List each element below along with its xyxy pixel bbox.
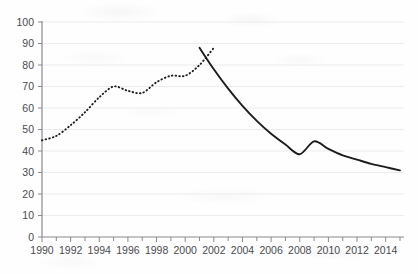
y-axis-tick-label: 80 <box>22 59 34 71</box>
y-axis-tick-label: 50 <box>22 123 34 135</box>
x-axis-group: 1990199219941996199820002002200420062008… <box>30 237 404 256</box>
y-axis-tick-label: 0 <box>28 231 34 243</box>
y-axis-tick-label: 90 <box>22 37 34 49</box>
x-axis-tick-label: 1998 <box>145 244 169 256</box>
y-axis-tick-label: 70 <box>22 80 34 92</box>
series-line-dotted <box>42 48 214 140</box>
x-axis-tick-label: 1994 <box>88 244 112 256</box>
y-axis-group: 0102030405060708090100 <box>16 16 42 243</box>
x-axis-tick-label: 1996 <box>116 244 140 256</box>
x-axis-tick-label: 2006 <box>259 244 283 256</box>
data-series-group <box>42 48 400 171</box>
line-chart-figure: 0102030405060708090100 19901992199419961… <box>0 0 418 274</box>
x-axis-tick-label: 2012 <box>345 244 369 256</box>
y-axis-tick-label: 10 <box>22 209 34 221</box>
y-axis-tick-label: 20 <box>22 188 34 200</box>
x-axis-tick-label: 2014 <box>374 244 398 256</box>
series-line-solid <box>200 48 400 171</box>
x-axis-tick-label: 2002 <box>202 244 226 256</box>
y-axis-tick-label: 40 <box>22 145 34 157</box>
x-axis-tick-label: 1990 <box>30 244 54 256</box>
y-axis-tick-label: 100 <box>16 16 34 28</box>
gridlines <box>42 22 404 216</box>
x-axis-tick-label: 2000 <box>174 244 198 256</box>
x-axis-tick-label: 2008 <box>288 244 312 256</box>
y-axis-tick-label: 60 <box>22 102 34 114</box>
x-axis-tick-label: 2004 <box>231 244 255 256</box>
x-axis-tick-label: 1992 <box>59 244 83 256</box>
y-axis-tick-label: 30 <box>22 166 34 178</box>
chart-plot-area: 0102030405060708090100 19901992199419961… <box>0 0 418 274</box>
x-axis-tick-label: 2010 <box>317 244 341 256</box>
